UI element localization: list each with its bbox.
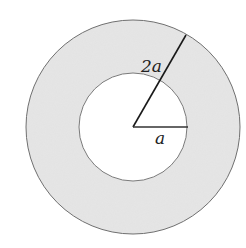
annulus-diagram: 2a a (0, 0, 246, 248)
outer-radius-label: 2a (140, 56, 162, 76)
inner-radius-label: a (155, 128, 165, 148)
